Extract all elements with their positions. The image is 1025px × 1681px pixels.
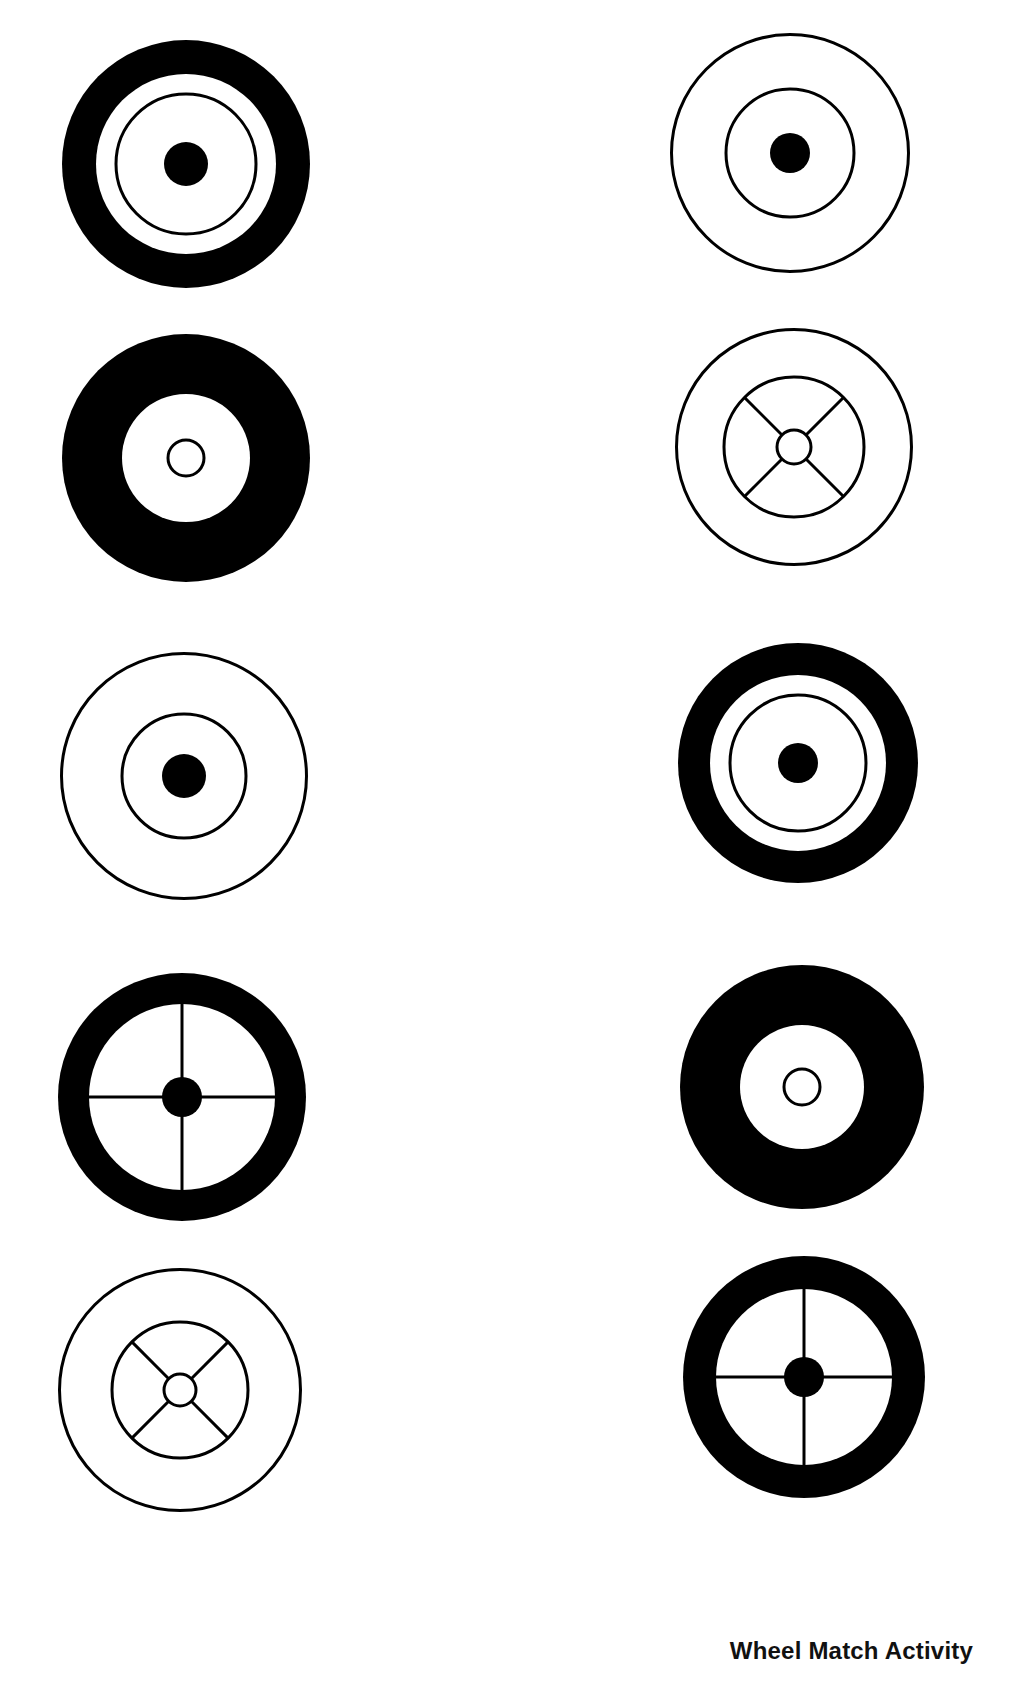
hub-open [777, 430, 811, 464]
hub-open [168, 440, 204, 476]
wheel-l4[interactable] [58, 973, 306, 1221]
hub-solid [164, 142, 208, 186]
hub-solid [778, 743, 818, 783]
activity-sheet: Wheel Match Activity [0, 0, 1025, 1681]
hub-solid [770, 133, 810, 173]
wheel-r3[interactable] [678, 643, 918, 883]
wheel-l3[interactable] [62, 654, 307, 899]
wheel-r5[interactable] [683, 1256, 925, 1498]
hub-solid [162, 754, 206, 798]
wheel-r1[interactable] [672, 35, 909, 272]
activity-caption: Wheel Match Activity [730, 1637, 973, 1665]
wheels-canvas [0, 0, 1025, 1681]
hub-open [164, 1374, 196, 1406]
hub-solid [784, 1357, 824, 1397]
wheel-l5[interactable] [60, 1270, 301, 1511]
wheel-r2[interactable] [677, 330, 912, 565]
hub-open [784, 1069, 820, 1105]
wheel-l1[interactable] [62, 40, 310, 288]
wheel-l2[interactable] [62, 334, 310, 582]
hub-solid [162, 1077, 202, 1117]
wheel-r4[interactable] [680, 965, 924, 1209]
